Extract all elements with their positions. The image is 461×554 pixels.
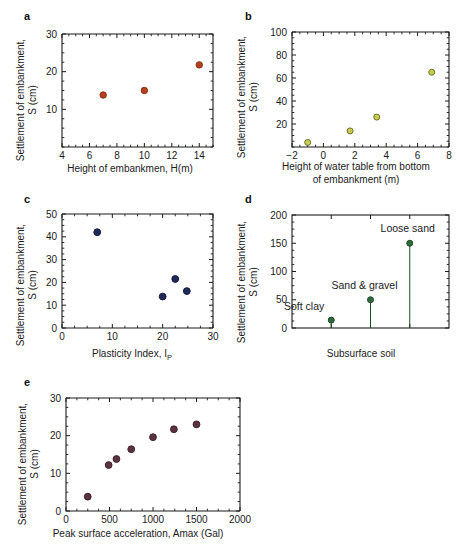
x-tick-label: 10 [139, 150, 151, 161]
data-point [328, 317, 334, 323]
data-point [407, 240, 413, 246]
x-tick-label: 2000 [229, 514, 252, 525]
panel-e-plot: 05001000150020000102030 Peak surface acc… [0, 372, 290, 554]
panel-c: c 010203001020304050 Plasticity Index, I… [0, 185, 230, 375]
data-point [347, 128, 353, 134]
data-point [105, 462, 112, 469]
x-tick-label: −2 [286, 150, 298, 161]
data-point [305, 139, 311, 145]
x-tick-label: 14 [194, 150, 206, 161]
figure-panel-grid: a 468101214102030 Height of embankmen, H… [0, 0, 461, 554]
y-tick-label: 0 [51, 323, 57, 334]
data-point [150, 434, 157, 441]
data-point [159, 293, 166, 300]
x-tick-label: 0 [59, 331, 65, 342]
y-tick-label: 40 [46, 231, 58, 242]
panel-c-ylabel-line2: S (cm) [27, 270, 38, 299]
y-tick-label: 20 [50, 430, 62, 441]
panel-b-xlabel-line2: of embankment (m) [313, 174, 400, 185]
point-annotation: Sand & gravel [332, 279, 398, 291]
panel-a-ylabel-line1: Settlement of embankment, [15, 39, 26, 161]
y-tick-label: 20 [276, 119, 288, 130]
y-tick-label: 20 [46, 66, 58, 77]
panel-b-plot: −20246820406080100 Height of water table… [228, 0, 461, 192]
panel-letter-d: d [245, 193, 252, 205]
panel-c-ylabel-line1: Settlement of embankment, [15, 224, 26, 346]
x-tick-label: 10 [107, 331, 119, 342]
panel-d-plot: 050100150200 Soft claySand & gravelLoose… [228, 185, 461, 375]
x-tick-label: 4 [59, 150, 65, 161]
panel-e-xlabel: Peak surface acceleration, Amax (Gal) [53, 528, 224, 539]
panel-letter-e: e [24, 376, 30, 388]
data-point [128, 446, 135, 453]
data-point [113, 456, 120, 463]
data-point [374, 114, 380, 120]
x-tick-label: 2 [352, 150, 358, 161]
y-tick-label: 100 [270, 266, 287, 277]
y-tick-label: 100 [270, 27, 287, 38]
y-tick-label: 60 [276, 73, 288, 84]
y-tick-label: 0 [55, 506, 61, 517]
x-tick-label: 6 [87, 150, 93, 161]
data-point [183, 288, 190, 295]
panel-d-ylabel-line2: S (cm) [248, 267, 259, 296]
y-tick-label: 0 [281, 323, 287, 334]
data-point [172, 276, 179, 283]
y-tick-label: 10 [50, 468, 62, 479]
panel-a-xlabel: Height of embankmen, H(m) [67, 163, 193, 174]
panel-c-plot: 010203001020304050 Plasticity Index, IP … [0, 185, 230, 375]
data-point [193, 421, 200, 428]
panel-b: b −20246820406080100 Height of water tab… [228, 0, 461, 192]
data-point [100, 92, 106, 98]
y-tick-label: 150 [270, 238, 287, 249]
x-tick-label: 30 [207, 331, 219, 342]
panel-letter-b: b [245, 10, 252, 22]
panel-a-plot: 468101214102030 Height of embankmen, H(m… [0, 0, 230, 185]
panel-e-ylabel-line2: S (cm) [29, 449, 40, 478]
panel-d-ylabel-line1: Settlement of embankment, [236, 221, 247, 343]
panel-letter-a: a [24, 10, 30, 22]
y-tick-label: 200 [270, 210, 287, 221]
x-tick-label: 1000 [142, 514, 165, 525]
x-tick-label: 1500 [185, 514, 208, 525]
panel-a: a 468101214102030 Height of embankmen, H… [0, 0, 230, 185]
x-tick-label: 8 [114, 150, 120, 161]
data-point [94, 229, 101, 236]
x-tick-label: 6 [415, 150, 421, 161]
data-point [368, 297, 374, 303]
y-tick-label: 30 [50, 393, 62, 404]
panel-b-ylabel-line2: S (cm) [248, 82, 259, 111]
x-tick-label: 8 [446, 150, 452, 161]
x-tick-label: 20 [157, 331, 169, 342]
panel-b-ylabel-line1: Settlement of embankment, [236, 36, 247, 158]
panel-a-ylabel-line2: S (cm) [27, 85, 38, 114]
panel-letter-c: c [24, 193, 30, 205]
x-tick-label: 0 [63, 514, 69, 525]
x-tick-label: 0 [321, 150, 327, 161]
panel-e-ylabel-line1: Settlement of embankment, [17, 403, 28, 525]
panel-d: d 050100150200 Soft claySand & gravelLoo… [228, 185, 461, 375]
x-tick-label: 12 [166, 150, 178, 161]
x-tick-label: 4 [383, 150, 389, 161]
data-point [84, 493, 91, 500]
y-tick-label: 10 [46, 104, 58, 115]
data-point [141, 87, 147, 93]
panel-d-xlabel: Subsurface soil [327, 348, 395, 359]
y-tick-label: 30 [46, 29, 58, 40]
panel-b-xlabel-line1: Height of water table from bottom [282, 161, 430, 172]
y-tick-label: 10 [46, 300, 58, 311]
y-tick-label: 20 [46, 277, 58, 288]
data-point [170, 426, 177, 433]
panel-c-xlabel: Plasticity Index, IP [92, 348, 172, 362]
data-point [196, 62, 202, 68]
y-tick-label: 50 [46, 209, 58, 220]
panel-e: e 05001000150020000102030 Peak surface a… [0, 372, 290, 554]
y-tick-label: 30 [46, 254, 58, 265]
data-point [429, 69, 435, 75]
y-tick-label: 80 [276, 50, 288, 61]
y-tick-label: 40 [276, 96, 288, 107]
point-annotation: Soft clay [284, 300, 325, 312]
x-tick-label: 500 [101, 514, 118, 525]
point-annotation: Loose sand [381, 222, 435, 234]
